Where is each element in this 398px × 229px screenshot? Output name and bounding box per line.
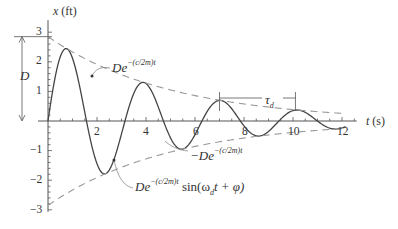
upper-envelope-exponent: −(c/2m)t <box>127 58 156 67</box>
curve-sin-rest: t + φ) <box>214 179 244 194</box>
lower-envelope-label: −De−(c/2m)t <box>190 149 242 162</box>
tau-d-label: τd <box>265 93 274 110</box>
upper-envelope-leader <box>92 67 110 76</box>
upper-envelope-De: De <box>112 60 127 75</box>
lower-envelope-exponent: −(c/2m)t <box>214 146 243 155</box>
response-curve-leader-dot <box>113 159 116 162</box>
tau-subscript: d <box>270 101 274 110</box>
lower-envelope-De: −De <box>190 148 214 163</box>
y-tick-2: 2 <box>36 55 42 67</box>
curve-sin: sin(ω <box>179 179 210 194</box>
x-tick-10: 10 <box>288 126 300 138</box>
curve-De: De <box>135 179 150 194</box>
y-tick-neg1: −1 <box>30 144 42 156</box>
y-tick-neg2: −2 <box>30 174 42 186</box>
response-curve-label: De−(c/2m)t sin(ωdt + φ) <box>135 180 244 197</box>
x-axis-unit: (s) <box>369 114 385 128</box>
response-curve-leader <box>114 160 133 188</box>
y-tick-3: 3 <box>36 26 42 38</box>
x-tick-8: 8 <box>242 126 248 138</box>
y-tick-1: 1 <box>36 85 42 97</box>
upper-envelope-leader-dot <box>91 75 94 78</box>
x-tick-4: 4 <box>143 126 149 138</box>
x-tick-2: 2 <box>94 126 100 138</box>
y-axis-unit: (ft) <box>58 4 76 18</box>
x-axis-label: t (s) <box>366 115 385 127</box>
x-tick-6: 6 <box>193 126 199 138</box>
y-axis-label: x (ft) <box>53 5 77 17</box>
x-tick-12: 12 <box>337 126 349 138</box>
curve-exponent: −(c/2m)t <box>150 177 179 186</box>
y-tick-neg3: −3 <box>30 204 42 216</box>
amplitude-D-label: D <box>20 69 29 82</box>
upper-envelope-label: De−(c/2m)t <box>112 61 156 74</box>
